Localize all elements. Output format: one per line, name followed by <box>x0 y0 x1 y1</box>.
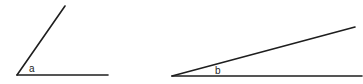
angle-b-label: b <box>215 65 221 76</box>
angles-diagram: a b <box>0 0 363 84</box>
angle-b: b <box>172 27 362 76</box>
angle-a-label: a <box>29 63 35 74</box>
angle-a-upper-ray <box>17 6 65 75</box>
angle-b-upper-ray <box>172 27 355 76</box>
angle-a: a <box>17 6 108 75</box>
